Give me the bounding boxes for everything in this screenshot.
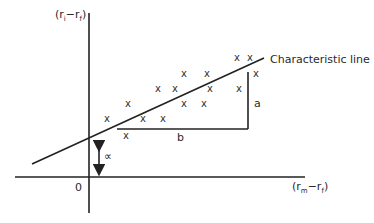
intercept-label-alpha: ∝ xyxy=(104,150,112,163)
data-point-mark: x xyxy=(155,83,161,94)
data-point-mark: x xyxy=(123,130,129,141)
data-point-mark: x xyxy=(160,113,166,124)
data-point-mark: x xyxy=(181,98,187,109)
data-point-mark: x xyxy=(140,113,146,124)
data-point-mark: x xyxy=(104,113,110,124)
origin-label: 0 xyxy=(75,181,82,194)
data-point-mark: x xyxy=(204,68,210,79)
data-point-mark: x xyxy=(207,83,213,94)
x-axis-label: (rm−rf) xyxy=(292,180,328,195)
rise-label-a: a xyxy=(254,97,261,110)
data-point-mark: x xyxy=(125,98,131,109)
data-point-mark: x xyxy=(201,98,207,109)
data-point-mark: x xyxy=(253,68,259,79)
data-point-mark: x xyxy=(181,68,187,79)
data-point-mark: x xyxy=(236,83,242,94)
characteristic-line-label: Characteristic line xyxy=(270,53,370,66)
data-point-mark: x xyxy=(234,52,240,63)
data-point-mark: x xyxy=(247,52,253,63)
characteristic-line xyxy=(32,58,264,164)
data-point-mark: x xyxy=(172,83,178,94)
run-label-b: b xyxy=(177,131,184,144)
characteristic-line-diagram: (ri−rf) (rm−rf) 0 Characteristic line b … xyxy=(0,0,374,223)
y-axis-label: (ri−rf) xyxy=(55,8,86,23)
